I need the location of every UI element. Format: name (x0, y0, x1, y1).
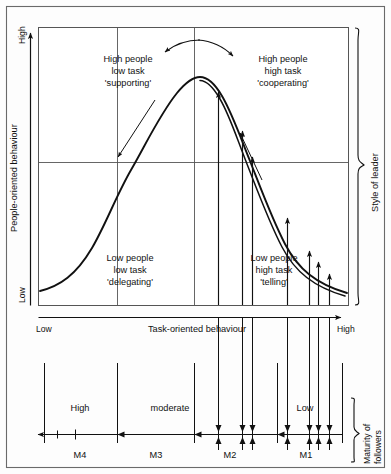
y-axis-high-label: High (17, 26, 27, 44)
maturity-level-low: Low (297, 403, 314, 413)
maturity-of-followers-label-line2: followers (373, 430, 383, 464)
band-arrow-m2 (195, 432, 202, 438)
x-axis-high-label: High (337, 324, 355, 334)
annotation-cooperating: High people high task 'cooperating' (257, 54, 309, 88)
maturity-code-m1: M1 (300, 450, 313, 460)
maturity-code-m4: M4 (74, 450, 87, 460)
svg-text:High people: High people (103, 54, 152, 64)
x-axis-title: Task-oriented behaviour (148, 324, 246, 334)
svg-text:low task: low task (111, 66, 145, 76)
y-axis-title: People-oriented behaviour (9, 124, 19, 232)
situational-leadership-diagram: High Low People-oriented behaviour Low T… (0, 0, 391, 474)
maturity-drop-lines (45, 317, 343, 450)
svg-text:'cooperating': 'cooperating' (257, 78, 309, 88)
maturity-level-high: High (71, 403, 90, 413)
maturity-of-followers-label-line1: Maturity of (362, 423, 372, 464)
svg-text:high task: high task (265, 66, 302, 76)
maturity-code-m2: M2 (224, 450, 237, 460)
plot-area-box (39, 28, 349, 306)
figure-root: High Low People-oriented behaviour Low T… (0, 0, 391, 474)
svg-text:Low people: Low people (107, 253, 154, 263)
style-of-leader-brace (355, 28, 364, 305)
annotation-delegating: Low people low task 'delegating' (107, 253, 154, 287)
maturity-code-m3: M3 (150, 450, 163, 460)
maturity-level-moderate: moderate (151, 403, 190, 413)
svg-text:'supporting': 'supporting' (105, 78, 152, 88)
y-axis-low-label: Low (17, 286, 27, 303)
svg-text:'delegating': 'delegating' (107, 277, 153, 287)
band-arrow-m1 (278, 432, 285, 438)
svg-text:High people: High people (258, 54, 307, 64)
maturity-of-followers-brace (351, 398, 359, 462)
x-axis-low-label: Low (36, 324, 53, 334)
band-arrow-m3 (118, 432, 125, 438)
svg-text:Low people: Low people (251, 253, 298, 263)
svg-text:low task: low task (113, 265, 147, 275)
style-of-leader-label: Style of leader (370, 153, 380, 212)
svg-text:'telling': 'telling' (260, 277, 288, 287)
